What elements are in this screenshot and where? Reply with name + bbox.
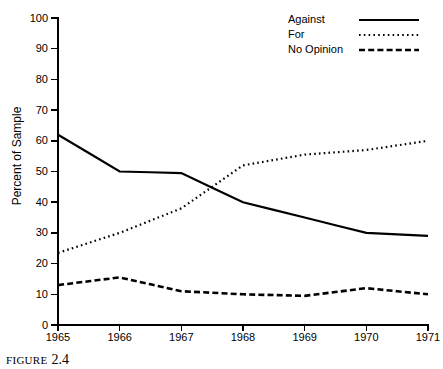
legend-item-for: For bbox=[288, 27, 438, 42]
y-tick-label: 80 bbox=[2, 74, 48, 85]
legend: AgainstForNo Opinion bbox=[288, 12, 438, 57]
x-tick-label: 1967 bbox=[159, 332, 203, 343]
legend-label: Against bbox=[288, 14, 358, 25]
series-line-for bbox=[58, 141, 428, 253]
y-tick-label: 50 bbox=[2, 166, 48, 177]
legend-item-against: Against bbox=[288, 12, 438, 27]
series-lines bbox=[58, 18, 428, 325]
y-tick-mark bbox=[51, 263, 57, 265]
x-tick-label: 1970 bbox=[344, 332, 388, 343]
y-tick-label: 70 bbox=[2, 105, 48, 116]
x-tick-label: 1966 bbox=[98, 332, 142, 343]
y-tick-mark bbox=[51, 79, 57, 81]
y-tick-mark bbox=[51, 324, 57, 326]
y-tick-label: 100 bbox=[2, 13, 48, 24]
y-tick-label: 90 bbox=[2, 43, 48, 54]
x-tick-label: 1965 bbox=[36, 332, 80, 343]
y-tick-mark bbox=[51, 48, 57, 50]
y-tick-label: 20 bbox=[2, 258, 48, 269]
caption-word: FIGURE bbox=[6, 354, 48, 366]
y-tick-mark bbox=[51, 232, 57, 234]
y-tick-label: 10 bbox=[2, 289, 48, 300]
figure-container: Percent of Sample 0102030405060708090100… bbox=[0, 0, 443, 369]
y-tick-label: 0 bbox=[2, 320, 48, 331]
y-tick-mark bbox=[51, 171, 57, 173]
legend-label: No Opinion bbox=[288, 44, 358, 55]
legend-item-no-opinion: No Opinion bbox=[288, 42, 438, 57]
legend-swatch-dashed bbox=[358, 45, 420, 55]
y-tick-label: 60 bbox=[2, 135, 48, 146]
series-line-no-opinion bbox=[58, 277, 428, 295]
y-tick-mark bbox=[51, 109, 57, 111]
legend-swatch-dotted bbox=[358, 30, 420, 40]
y-tick-mark bbox=[51, 17, 57, 19]
caption-number: 2.4 bbox=[52, 352, 70, 367]
y-tick-label: 30 bbox=[2, 227, 48, 238]
legend-swatch-solid bbox=[358, 15, 420, 25]
plot-area bbox=[58, 18, 428, 325]
y-tick-mark bbox=[51, 140, 57, 142]
x-tick-label: 1971 bbox=[406, 332, 443, 343]
y-tick-mark bbox=[51, 201, 57, 203]
x-tick-label: 1968 bbox=[221, 332, 265, 343]
figure-caption: FIGURE2.4 bbox=[6, 350, 69, 368]
x-tick-label: 1969 bbox=[283, 332, 327, 343]
legend-label: For bbox=[288, 29, 358, 40]
y-tick-label: 40 bbox=[2, 197, 48, 208]
y-tick-mark bbox=[51, 294, 57, 296]
